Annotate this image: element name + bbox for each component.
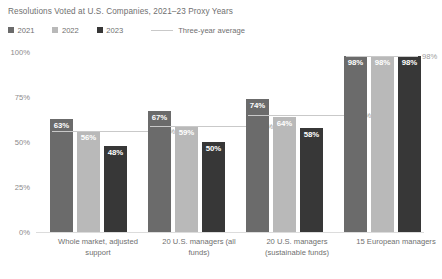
y-tick-0: 0% xyxy=(19,228,30,237)
bar-2022: 59% xyxy=(175,126,198,232)
legend-label-2022: 2022 xyxy=(62,26,79,35)
category-label-line-1: 15 European managers xyxy=(333,236,442,247)
bar-group-european-managers: 98% 98% 98% 98% xyxy=(344,52,426,232)
bar-value-2021: 63% xyxy=(50,121,73,130)
average-line-whole-market xyxy=(52,131,156,132)
bar-2021: 74% xyxy=(246,99,269,232)
legend-item-2021: 2021 xyxy=(8,26,34,35)
legend-label-2023: 2023 xyxy=(106,26,123,35)
category-label-european-managers: 15 European managers xyxy=(333,236,442,247)
x-axis-baseline xyxy=(36,232,424,233)
bars-european-managers: 98% 98% 98% xyxy=(344,52,426,232)
bar-2023: 50% xyxy=(202,142,225,232)
legend-swatch-2022 xyxy=(52,27,58,33)
y-tick-75: 75% xyxy=(15,93,30,102)
bar-value-2023: 50% xyxy=(202,144,225,153)
bar-2021: 98% xyxy=(344,56,367,232)
average-line-us-managers-sustainable-funds xyxy=(248,115,352,116)
bar-value-2022: 64% xyxy=(273,119,296,128)
legend-item-2022: 2022 xyxy=(52,26,78,35)
bar-value-2021: 67% xyxy=(148,113,171,122)
legend-label-three-year-average: Three-year average xyxy=(178,26,245,35)
legend-swatch-2023 xyxy=(97,27,103,33)
legend-label-2021: 2021 xyxy=(18,26,35,35)
bar-2022: 64% xyxy=(273,117,296,232)
bar-2023: 58% xyxy=(300,128,323,232)
bar-value-2021: 74% xyxy=(246,101,269,110)
bars-whole-market: 63% 56% 48% xyxy=(50,52,132,232)
average-label-european-managers: 98% xyxy=(422,51,437,60)
y-tick-50: 50% xyxy=(15,138,30,147)
chart-title: Resolutions Voted at U.S. Companies, 202… xyxy=(8,7,233,16)
chart-legend: 2021 2022 2023 Three-year average xyxy=(8,24,245,36)
average-line-us-managers-all-funds xyxy=(150,126,254,127)
bar-value-2022: 98% xyxy=(371,58,394,67)
category-label-line-2: (sustainable funds) xyxy=(236,247,358,258)
bar-2021: 67% xyxy=(148,111,171,232)
legend-line-icon xyxy=(151,30,173,31)
legend-swatch-2021 xyxy=(8,27,14,33)
bar-2022: 98% xyxy=(371,56,394,232)
plot-area: 63% 56% 48% 56% 67% 59% xyxy=(36,52,424,232)
bar-value-2023: 98% xyxy=(398,58,421,67)
bar-2023: 98% xyxy=(398,56,421,232)
y-tick-100: 100% xyxy=(11,48,30,57)
bar-2023: 48% xyxy=(104,146,127,232)
x-axis-category-labels: Whole market, adjusted support 20 U.S. m… xyxy=(36,236,424,276)
bar-value-2022: 59% xyxy=(175,128,198,137)
bar-value-2023: 58% xyxy=(300,130,323,139)
bar-2022: 56% xyxy=(77,131,100,232)
average-line-european-managers xyxy=(346,56,418,57)
y-tick-25: 25% xyxy=(15,183,30,192)
bar-group-us-managers-all-funds: 67% 59% 50% 59% xyxy=(148,52,230,232)
legend-item-2023: 2023 xyxy=(97,26,123,35)
bars-us-managers-all-funds: 67% 59% 50% xyxy=(148,52,230,232)
legend-item-three-year-average: Three-year average xyxy=(151,26,245,35)
bars-us-managers-sustainable-funds: 74% 64% 58% xyxy=(246,52,328,232)
bar-group-us-managers-sustainable-funds: 74% 64% 58% 65% xyxy=(246,52,328,232)
bar-value-2023: 48% xyxy=(104,148,127,157)
bar-value-2022: 56% xyxy=(77,133,100,142)
bar-2021: 63% xyxy=(50,119,73,232)
bar-value-2021: 98% xyxy=(344,58,367,67)
y-axis: 100% 75% 50% 25% 0% xyxy=(0,52,34,232)
bar-group-whole-market: 63% 56% 48% 56% xyxy=(50,52,132,232)
